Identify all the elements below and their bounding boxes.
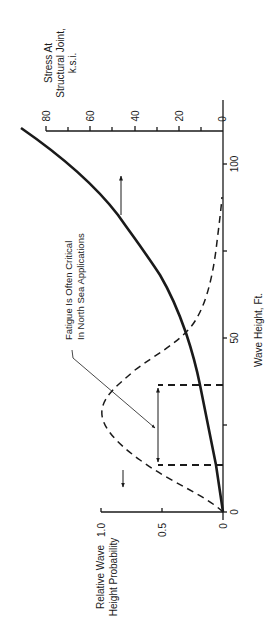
wave-tick-0: 0 <box>229 509 240 515</box>
fatigue-annotation: Fatigue Is Often Critical In North Sea A… <box>63 233 86 340</box>
stress-tick-40: 40 <box>130 110 141 122</box>
prob-title-line2: Height Probability <box>108 538 119 616</box>
stress-curve <box>21 128 223 512</box>
stress-axis <box>46 126 223 131</box>
wave-height-tick-labels: 0 50 100 <box>229 155 240 515</box>
wave-height-axis-title: Wave Height, Ft. <box>253 293 264 367</box>
probability-axis <box>101 508 223 512</box>
stress-tick-20: 20 <box>174 110 185 122</box>
prob-tick-1: 1.0 <box>96 523 107 537</box>
stress-tick-80: 80 <box>41 110 52 122</box>
wave-tick-50: 50 <box>229 332 240 344</box>
prob-title-line1: Relative Wave <box>95 545 106 610</box>
wave-height-axis <box>223 100 227 520</box>
probability-axis-title: Relative Wave Height Probability <box>95 538 119 616</box>
stress-title-line3: k.s.i. <box>67 53 78 74</box>
stress-tick-60: 60 <box>85 110 96 122</box>
annotation-line2: In North Sea Applications <box>75 233 86 340</box>
prob-tick-0: 0 <box>218 523 229 529</box>
stress-title-line1: Stress At <box>43 43 54 83</box>
annotation-line1: Fatigue Is Often Critical <box>63 241 74 340</box>
stress-title-line2: Structural Joint, <box>55 28 66 97</box>
wave-tick-100: 100 <box>229 155 240 172</box>
stress-tick-0: 0 <box>217 116 228 122</box>
probability-tick-labels: 1.0 0.5 0 <box>96 523 229 537</box>
stress-tick-labels: 80 60 40 20 0 <box>41 110 228 122</box>
annotation-leader <box>72 350 155 428</box>
prob-tick-0-5: 0.5 <box>157 523 168 537</box>
stress-axis-title: Stress At Structural Joint, k.s.i. <box>43 28 78 97</box>
wave-stress-chart: 0 50 100 Wave Height, Ft. 80 60 40 20 0 … <box>0 0 268 628</box>
